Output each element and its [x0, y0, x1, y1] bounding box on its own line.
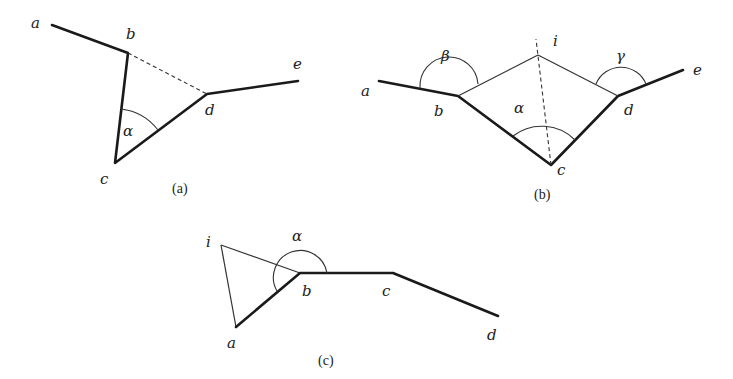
thin-line-i-b: [221, 245, 300, 273]
angle-label-gamma: γ: [616, 47, 625, 65]
vertex-label-c: c: [100, 170, 109, 188]
vertex-label-i: i: [206, 233, 211, 251]
angle-label-alpha: α: [292, 227, 302, 245]
dashed-line-b-d: [128, 53, 207, 94]
geometry-figure: a b c d e α (a) a b c d e i β α γ (b) i …: [0, 0, 733, 379]
polyline-a-b-c-d: [236, 273, 498, 327]
angle-arc-alpha: [513, 126, 575, 140]
thin-line-i-a: [221, 245, 236, 327]
panel-caption-b: (b): [534, 187, 551, 203]
thin-line-b-i: [458, 55, 538, 96]
vertex-label-c: c: [382, 282, 391, 300]
angle-arc-alpha: [273, 250, 327, 291]
vertex-label-d: d: [487, 326, 497, 344]
angle-label-alpha: α: [123, 122, 133, 140]
vertex-label-a: a: [361, 82, 370, 100]
panel-c: i a b c d α (c): [206, 227, 498, 369]
vertex-label-a: a: [227, 334, 236, 352]
vertex-label-c: c: [557, 161, 566, 179]
angle-label-beta: β: [440, 47, 450, 65]
vertex-label-e: e: [693, 61, 702, 79]
panel-b: a b c d e i β α γ (b): [361, 32, 702, 203]
panel-caption-a: (a): [172, 181, 188, 197]
thin-line-i-d: [538, 55, 618, 96]
vertex-label-b: b: [302, 282, 312, 300]
angle-arc-gamma: [596, 67, 646, 84]
vertex-label-b: b: [126, 25, 136, 43]
panel-a: a b c d e α (a): [31, 14, 302, 197]
vertex-label-a: a: [31, 14, 40, 32]
vertex-label-b: b: [434, 102, 444, 120]
angle-label-alpha: α: [514, 99, 524, 117]
vertex-label-d: d: [205, 101, 215, 119]
panel-caption-c: (c): [318, 353, 334, 369]
polyline-a-b-c-d-e: [379, 70, 683, 165]
vertex-label-d: d: [624, 101, 634, 119]
vertex-label-e: e: [293, 55, 302, 73]
polyline-a-b-c-d-e: [52, 25, 298, 163]
vertex-label-i: i: [553, 32, 558, 50]
